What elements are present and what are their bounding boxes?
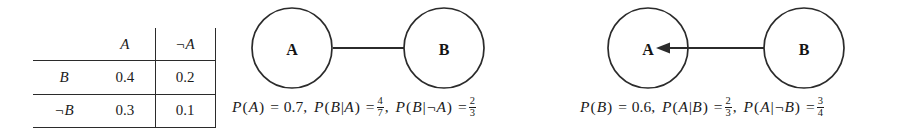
arg-a: A (249, 98, 258, 115)
fraction-denominator: 7 (377, 108, 384, 119)
formula-caption-b-to-a: P(B) = 0.6, P(A|B) =23, P(A|¬B) =34 (580, 96, 825, 119)
node-a-label: A (642, 41, 654, 58)
node-a-label: A (286, 41, 298, 58)
formula-term-cond2: P(A|¬B) =34 (744, 98, 825, 115)
equals-sign: = (365, 98, 376, 115)
row-header-b: B (33, 61, 95, 94)
node-b-label: B (439, 41, 450, 58)
formula-term-cond1: P(B|A) =47 (314, 98, 385, 115)
arg-a-given-not-b: A|¬B (760, 98, 794, 115)
formula-term-cond2: P(B|¬A) =23 (396, 98, 477, 115)
lparen: ( (589, 98, 596, 115)
arg-b-given-not-a: B|¬A (412, 98, 446, 115)
joint-probability-grid: A ¬A B 0.4 0.2 ¬B 0.3 0.1 (33, 28, 216, 128)
lparen: ( (323, 98, 330, 115)
value-prior-b: 0.6 (632, 98, 651, 115)
joint-probability-table: A ¬A B 0.4 0.2 ¬B 0.3 0.1 (33, 28, 215, 128)
bayesian-network-b-to-a: A B (604, 4, 848, 92)
fn-p: P (662, 98, 671, 115)
value-prior-a: 0.7 (284, 98, 303, 115)
fraction-3-4: 34 (817, 96, 824, 119)
table-header-row: A ¬A (33, 28, 215, 61)
fraction-denominator: 3 (725, 108, 732, 119)
equals-sign: = (617, 98, 628, 115)
column-header-not-a: ¬A (155, 28, 215, 61)
arg-b: B (597, 98, 606, 115)
fraction-4-7: 47 (377, 96, 384, 119)
fraction-denominator: 4 (817, 108, 824, 119)
column-header-a: A (95, 28, 155, 61)
cell-not-b-a: 0.3 (95, 94, 155, 127)
rparen: ) (446, 98, 453, 115)
arg-a-given-b: A|B (679, 98, 702, 115)
rparen: ) (258, 98, 265, 115)
comma: , (385, 98, 392, 115)
table-row: ¬B 0.3 0.1 (33, 94, 215, 127)
equals-sign: = (269, 98, 280, 115)
fraction-2-3: 23 (469, 96, 476, 119)
comma: , (303, 98, 310, 115)
table-row: B 0.4 0.2 (33, 61, 215, 94)
rparen: ) (606, 98, 613, 115)
rparen: ) (354, 98, 361, 115)
fraction-denominator: 3 (469, 108, 476, 119)
cell-b-a: 0.4 (95, 61, 155, 94)
equals-sign: = (805, 98, 816, 115)
rparen: ) (702, 98, 709, 115)
lparen: ( (671, 98, 678, 115)
fn-p: P (396, 98, 405, 115)
fn-p: P (314, 98, 323, 115)
fraction-2-3: 23 (725, 96, 732, 119)
lparen: ( (241, 98, 248, 115)
formula-term-prior: P(B) = 0.6 (580, 98, 651, 115)
cell-b-not-a: 0.2 (155, 61, 215, 94)
equals-sign: = (713, 98, 724, 115)
rparen: ) (794, 98, 801, 115)
formula-term-cond1: P(A|B) =23 (662, 98, 733, 115)
equals-sign: = (457, 98, 468, 115)
formula-caption-a-to-b: P(A) = 0.7, P(B|A) =47, P(B|¬A) =23 (232, 96, 477, 119)
bayesian-network-a-to-b: A B (248, 4, 488, 92)
table-corner-cell (33, 28, 95, 61)
arg-b-given-a: B|A (331, 98, 354, 115)
formula-term-prior: P(A) = 0.7 (232, 98, 303, 115)
row-header-not-b: ¬B (33, 94, 95, 127)
comma: , (651, 98, 658, 115)
comma: , (733, 98, 740, 115)
fn-p: P (744, 98, 753, 115)
node-b-label: B (799, 41, 810, 58)
cell-not-b-not-a: 0.1 (155, 94, 215, 127)
